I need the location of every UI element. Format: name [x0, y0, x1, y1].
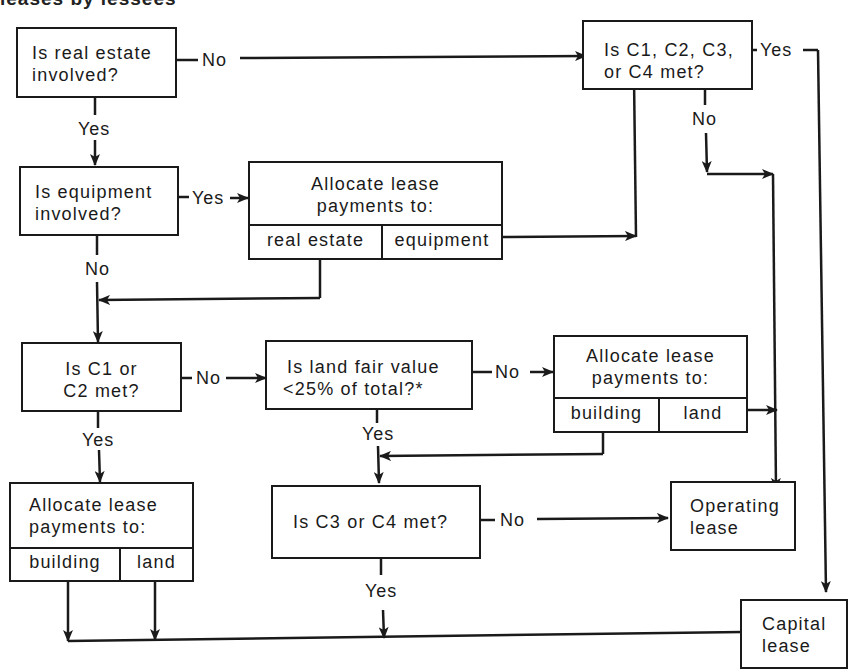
edge-label-c1-c4-yes: Yes: [757, 40, 795, 60]
node-capital-lease: Capital lease: [740, 599, 848, 669]
node-allocate-building-land-left: Allocate lease payments to: building lan…: [9, 482, 194, 582]
node-line: Is C1 or: [23, 358, 180, 380]
cell-real-estate: real estate: [250, 224, 381, 258]
edge-label-c1-c4-no: No: [689, 109, 720, 129]
node-line: Is equipment: [35, 181, 177, 203]
cell-building: building: [555, 397, 658, 431]
node-line: payments to:: [29, 516, 192, 538]
node-line: Is real estate: [32, 42, 175, 64]
node-allocate-building-land-right: Allocate lease payments to: building lan…: [553, 335, 748, 433]
node-line: <25% of total?*: [283, 378, 471, 400]
cell-land: land: [119, 547, 192, 580]
node-real-estate-involved: Is real estate involved?: [16, 27, 177, 98]
edge-label-land-value-yes: Yes: [359, 424, 397, 444]
node-line: Is C3 or C4 met?: [293, 511, 479, 533]
cell-building: building: [11, 547, 119, 580]
edge-label-real-estate-yes: Yes: [75, 119, 113, 139]
node-line: C2 met?: [23, 380, 180, 402]
edge-label-equipment-yes: Yes: [189, 188, 227, 208]
node-line: Operating: [690, 495, 794, 517]
node-line: Capital: [762, 613, 846, 635]
node-line: or C4 met?: [604, 61, 751, 83]
node-allocate-real-estate-equipment: Allocate lease payments to: real estate …: [248, 161, 503, 260]
node-line: payments to:: [250, 195, 501, 217]
cell-land: land: [658, 397, 746, 431]
edge-label-real-estate-no: No: [199, 50, 230, 70]
node-line: Allocate lease: [29, 494, 192, 516]
cell-equipment: equipment: [381, 224, 501, 258]
node-line: Is land fair value: [287, 356, 471, 378]
node-line: payments to:: [555, 367, 746, 389]
node-line: Allocate lease: [555, 345, 746, 367]
node-line: lease: [762, 635, 846, 657]
node-land-fair-value: Is land fair value <25% of total?*: [265, 340, 473, 410]
node-line: Allocate lease: [250, 173, 501, 195]
edge-label-land-value-no: No: [492, 362, 523, 382]
node-line: involved?: [35, 203, 177, 225]
edge-label-c1-c2-no: No: [193, 368, 224, 388]
edge-label-c1-c2-yes: Yes: [79, 430, 117, 450]
node-line: lease: [690, 517, 794, 539]
edge-label-c3-c4-yes: Yes: [362, 581, 400, 601]
node-equipment-involved: Is equipment involved?: [19, 166, 179, 236]
node-line: Is C1, C2, C3,: [604, 39, 751, 61]
node-line: involved?: [32, 64, 175, 86]
node-c1-c2-met: Is C1 or C2 met?: [21, 342, 182, 412]
edge-label-c3-c4-no: No: [497, 510, 528, 530]
node-c1-c4-met: Is C1, C2, C3, or C4 met?: [582, 20, 753, 90]
node-operating-lease: Operating lease: [670, 481, 796, 551]
edge-label-equipment-no: No: [82, 259, 113, 279]
node-c3-c4-met: Is C3 or C4 met?: [271, 485, 481, 559]
